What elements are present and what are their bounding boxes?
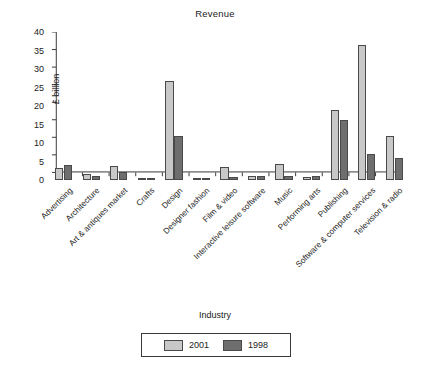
bar-group xyxy=(105,32,133,180)
bar-1998-publishing xyxy=(340,120,348,180)
bar-group xyxy=(325,32,353,180)
revenue-bar-chart-figure: Revenue £ billion 0510152025303540 Adver… xyxy=(0,0,430,374)
chart-title: Revenue xyxy=(0,8,430,19)
y-tick-label: 10 xyxy=(34,138,44,148)
legend-swatch-1998 xyxy=(223,340,242,351)
bar-1998-architecture xyxy=(92,176,100,180)
chart-legend: 20011998 xyxy=(141,333,291,357)
bar-1998-crafts xyxy=(147,178,155,180)
bar-2001-crafts xyxy=(138,178,146,180)
bar-1998-performing-arts xyxy=(312,176,320,180)
y-tick-label: 40 xyxy=(34,27,44,37)
x-tick-label: Television & radio xyxy=(353,186,405,238)
bar-group xyxy=(188,32,216,180)
bar-group xyxy=(243,32,271,180)
bar-group xyxy=(380,32,408,180)
bar-group xyxy=(78,32,106,180)
bar-2001-publishing xyxy=(331,110,339,180)
legend-entry-1998: 1998 xyxy=(223,340,268,351)
bar-2001-architecture xyxy=(83,174,91,180)
x-tick-label: Design xyxy=(160,186,184,210)
plot-area: £ billion 0510152025303540 xyxy=(50,32,408,180)
bar-group xyxy=(270,32,298,180)
bar-2001-advertising xyxy=(55,168,63,180)
y-tick-label: 0 xyxy=(39,175,44,185)
bar-1998-design xyxy=(174,136,182,180)
y-tick-label: 35 xyxy=(34,46,44,56)
bar-2001-film-video xyxy=(220,167,228,180)
bar-1998-software-computer-services xyxy=(367,154,375,180)
y-tick-label: 5 xyxy=(39,157,44,167)
bar-group xyxy=(215,32,243,180)
bar-2001-television-radio xyxy=(386,136,394,180)
x-tick-label: Crafts xyxy=(135,186,157,208)
y-tick-label: 15 xyxy=(34,120,44,130)
bar-2001-interactive-leisure-software xyxy=(248,176,256,180)
bar-1998-film-video xyxy=(229,177,237,180)
bar-1998-television-radio xyxy=(395,158,403,180)
y-tick-label: 30 xyxy=(34,64,44,74)
bar-2001-design xyxy=(165,81,173,180)
bar-1998-art-antiques-market xyxy=(119,172,127,180)
x-axis-title: Industry xyxy=(0,310,430,320)
y-tick-label: 25 xyxy=(34,83,44,93)
legend-label-2001: 2001 xyxy=(189,340,209,350)
legend-entry-2001: 2001 xyxy=(164,340,209,351)
bar-2001-designer-fashion xyxy=(193,178,201,180)
x-tick-label: Music xyxy=(273,186,294,207)
bar-group xyxy=(298,32,326,180)
bar-1998-interactive-leisure-software xyxy=(257,176,265,180)
bar-group xyxy=(50,32,78,180)
bar-1998-music xyxy=(284,176,292,180)
legend-swatch-2001 xyxy=(164,340,183,351)
bar-2001-music xyxy=(275,164,283,180)
bar-group xyxy=(353,32,381,180)
bar-group xyxy=(133,32,161,180)
legend-label-1998: 1998 xyxy=(248,340,268,350)
bar-1998-designer-fashion xyxy=(202,178,210,180)
bar-2001-software-computer-services xyxy=(358,45,366,180)
bar-group xyxy=(160,32,188,180)
bar-1998-advertising xyxy=(64,165,72,180)
bar-2001-art-antiques-market xyxy=(110,166,118,180)
bar-2001-performing-arts xyxy=(303,177,311,180)
y-tick-label: 20 xyxy=(34,101,44,111)
